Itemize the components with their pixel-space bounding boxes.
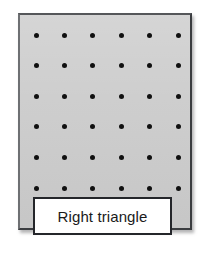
peg-dot [90,33,95,38]
peg-dot [119,186,124,191]
peg-dot [147,94,152,99]
peg-dot [119,33,124,38]
peg-dot [147,63,152,68]
peg-dot [62,94,67,99]
peg-dot [34,186,39,191]
peg-dot [176,94,181,99]
peg-dot [176,63,181,68]
peg-dot [147,124,152,129]
peg-dot [147,155,152,160]
peg-dot [62,155,67,160]
peg-dot [34,33,39,38]
peg-dot [176,155,181,160]
peg-dot [62,33,67,38]
peg-dot [62,63,67,68]
peg-dot [90,155,95,160]
shape-label-box: Right triangle [33,197,172,235]
peg-dot [90,94,95,99]
peg-dot [90,186,95,191]
geoboard-figure: Right triangle [0,0,206,260]
peg-dot [34,94,39,99]
peg-dot [119,94,124,99]
peg-dot [176,124,181,129]
peg-dot [34,155,39,160]
peg-dot [176,186,181,191]
peg-dot [119,63,124,68]
peg-dot [34,63,39,68]
peg-dot [147,33,152,38]
peg-dot [119,155,124,160]
peg-dot [119,124,124,129]
peg-dot [90,63,95,68]
shape-label-text: Right triangle [58,209,148,224]
peg-dot [147,186,152,191]
peg-dot [62,186,67,191]
peg-dot [62,124,67,129]
peg-dot [90,124,95,129]
peg-dot [34,124,39,129]
peg-dot [176,33,181,38]
